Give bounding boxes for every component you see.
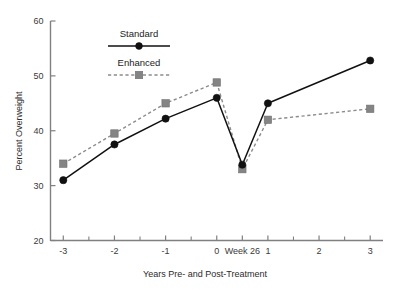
y-axis-tick-labels: 2030405060	[33, 16, 43, 246]
y-axis-ticks	[51, 21, 56, 241]
x-axis-ticks	[63, 236, 370, 241]
x-tick-label: -3	[59, 246, 67, 256]
data-point-standard	[239, 161, 246, 168]
x-axis-title: Years Pre- and Post-Treatment	[143, 269, 267, 279]
x-tick-label: Week 26	[225, 246, 260, 256]
chart-legend: Standard Enhanced	[108, 28, 170, 79]
x-tick-label: -1	[162, 246, 170, 256]
data-point-standard	[60, 177, 67, 184]
series-enhanced	[60, 79, 374, 173]
x-tick-label: 3	[368, 246, 373, 256]
x-tick-label: 2	[317, 246, 322, 256]
line-chart-canvas: 2030405060 -3-2-10Week 26123 Years Pre- …	[0, 0, 400, 293]
y-tick-label: 40	[33, 126, 43, 136]
data-point-enhanced	[367, 105, 374, 112]
x-tick-label: 1	[265, 246, 270, 256]
data-point-enhanced	[60, 160, 67, 167]
x-axis-tick-labels: -3-2-10Week 26123	[59, 246, 372, 256]
y-axis-title: Percent Overweight	[14, 91, 24, 171]
data-point-enhanced	[111, 130, 118, 137]
standard-markers	[60, 57, 374, 184]
x-tick-label: 0	[214, 246, 219, 256]
legend-label-standard: Standard	[120, 28, 159, 39]
y-tick-label: 50	[33, 71, 43, 81]
x-tick-label: -2	[110, 246, 118, 256]
standard-line-path	[63, 61, 370, 181]
enhanced-markers	[60, 79, 374, 173]
legend-label-enhanced: Enhanced	[118, 57, 161, 68]
data-point-standard	[367, 57, 374, 64]
series-standard	[60, 57, 374, 184]
legend-swatch-standard-marker	[136, 43, 143, 50]
y-tick-label: 60	[33, 16, 43, 26]
data-point-enhanced	[213, 79, 220, 86]
legend-swatch-enhanced-marker	[135, 71, 142, 78]
data-point-enhanced	[162, 100, 169, 107]
y-tick-label: 30	[33, 181, 43, 191]
data-point-standard	[111, 141, 118, 148]
data-point-standard	[264, 100, 271, 107]
chart-figure: 2030405060 -3-2-10Week 26123 Years Pre- …	[0, 0, 400, 293]
data-point-standard	[213, 94, 220, 101]
y-tick-label: 20	[33, 236, 43, 246]
data-point-standard	[162, 115, 169, 122]
data-point-enhanced	[264, 116, 271, 123]
